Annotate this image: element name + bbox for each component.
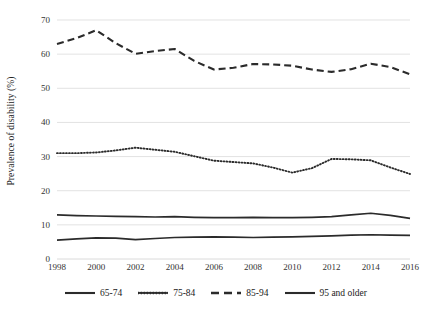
x-tick-label: 2004 [166,262,184,273]
solid-line-icon [65,288,95,298]
x-tick-label: 2002 [126,262,144,273]
solid-line-icon [285,288,315,298]
legend-label: 75-84 [173,288,195,298]
legend-label: 65-74 [100,288,122,298]
dashed-line-icon [211,288,241,298]
x-tick-label: 2010 [283,262,301,273]
x-axis-tick-labels: 1998200020022004200620082010201220142016 [57,262,410,278]
y-axis-title-text: Prevalence of disability (%) [6,76,16,185]
y-tick-label: 30 [20,152,50,161]
x-tick-label: 2008 [244,262,262,273]
y-axis-tick-labels: 706050403020100 [20,0,50,309]
y-tick-label: 0 [20,255,50,264]
plot-svg [57,20,410,259]
legend-item[interactable]: 95 and older [285,288,368,298]
y-tick-label: 70 [20,16,50,25]
dotted-line-icon [138,288,168,298]
x-tick-label: 2000 [87,262,105,273]
y-tick-label: 20 [20,186,50,195]
legend-item[interactable]: 75-84 [138,288,195,298]
x-tick-label: 2014 [362,262,380,273]
x-tick-label: 2016 [401,262,419,273]
y-tick-label: 50 [20,84,50,93]
series-line-85-94 [57,30,410,74]
line-chart: Prevalence of disability (%) 70605040302… [0,0,432,309]
legend-label: 95 and older [320,288,368,298]
x-tick-label: 1998 [48,262,66,273]
y-tick-label: 40 [20,118,50,127]
series-line-75-84 [57,148,410,174]
legend-item[interactable]: 65-74 [65,288,122,298]
legend-label: 85-94 [246,288,268,298]
series-line-95-and-older [57,235,410,240]
x-tick-label: 2006 [205,262,223,273]
x-tick-label: 2012 [323,262,341,273]
chart-legend: 65-7475-8485-9495 and older [0,283,432,303]
legend-item[interactable]: 85-94 [211,288,268,298]
series-line-65-74 [57,213,410,218]
y-tick-label: 10 [20,220,50,229]
y-tick-label: 60 [20,50,50,59]
y-axis-title: Prevalence of disability (%) [2,0,20,262]
plot-area [57,20,410,259]
